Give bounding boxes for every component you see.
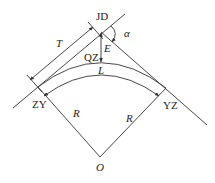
curve-length-arc — [44, 75, 159, 96]
label-t: T — [56, 37, 63, 49]
label-alpha: α — [124, 27, 130, 39]
left-tangent-line — [13, 14, 125, 108]
label-qz: QZ — [84, 51, 99, 63]
label-zy: ZY — [32, 98, 47, 110]
radius-left — [38, 87, 100, 157]
label-e: E — [103, 42, 111, 54]
label-jd: JD — [96, 10, 108, 22]
label-o: O — [96, 161, 104, 173]
label-yz: YZ — [163, 99, 178, 111]
right-tangent-line — [101, 32, 207, 125]
radius-right — [100, 88, 166, 157]
label-r-left: R — [72, 107, 80, 119]
deflection-angle-arc — [111, 26, 115, 42]
label-r-right: R — [125, 112, 133, 124]
curve-diagram: JD α T E QZ L ZY YZ R R O — [0, 0, 215, 183]
label-l: L — [97, 64, 104, 76]
